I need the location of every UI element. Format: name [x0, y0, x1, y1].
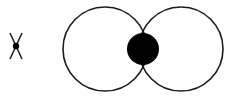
shaded-blob: [127, 33, 159, 65]
x-vertex-icon: [10, 33, 22, 59]
diagram-figure: quartic vertex shaded vertex blob: [0, 0, 230, 99]
double-loop: [63, 7, 223, 91]
vertex-dot: [13, 43, 19, 49]
